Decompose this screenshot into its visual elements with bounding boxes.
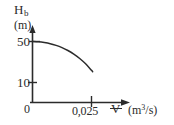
head-curve	[33, 42, 93, 72]
x-axis	[30, 99, 130, 105]
y-axis	[29, 25, 35, 103]
y-tick-marks	[28, 42, 40, 83]
plot-area	[0, 0, 174, 125]
pump-characteristic-chart: Hb (m) 50 10 0 0,025 V (m3/s)	[0, 0, 174, 125]
